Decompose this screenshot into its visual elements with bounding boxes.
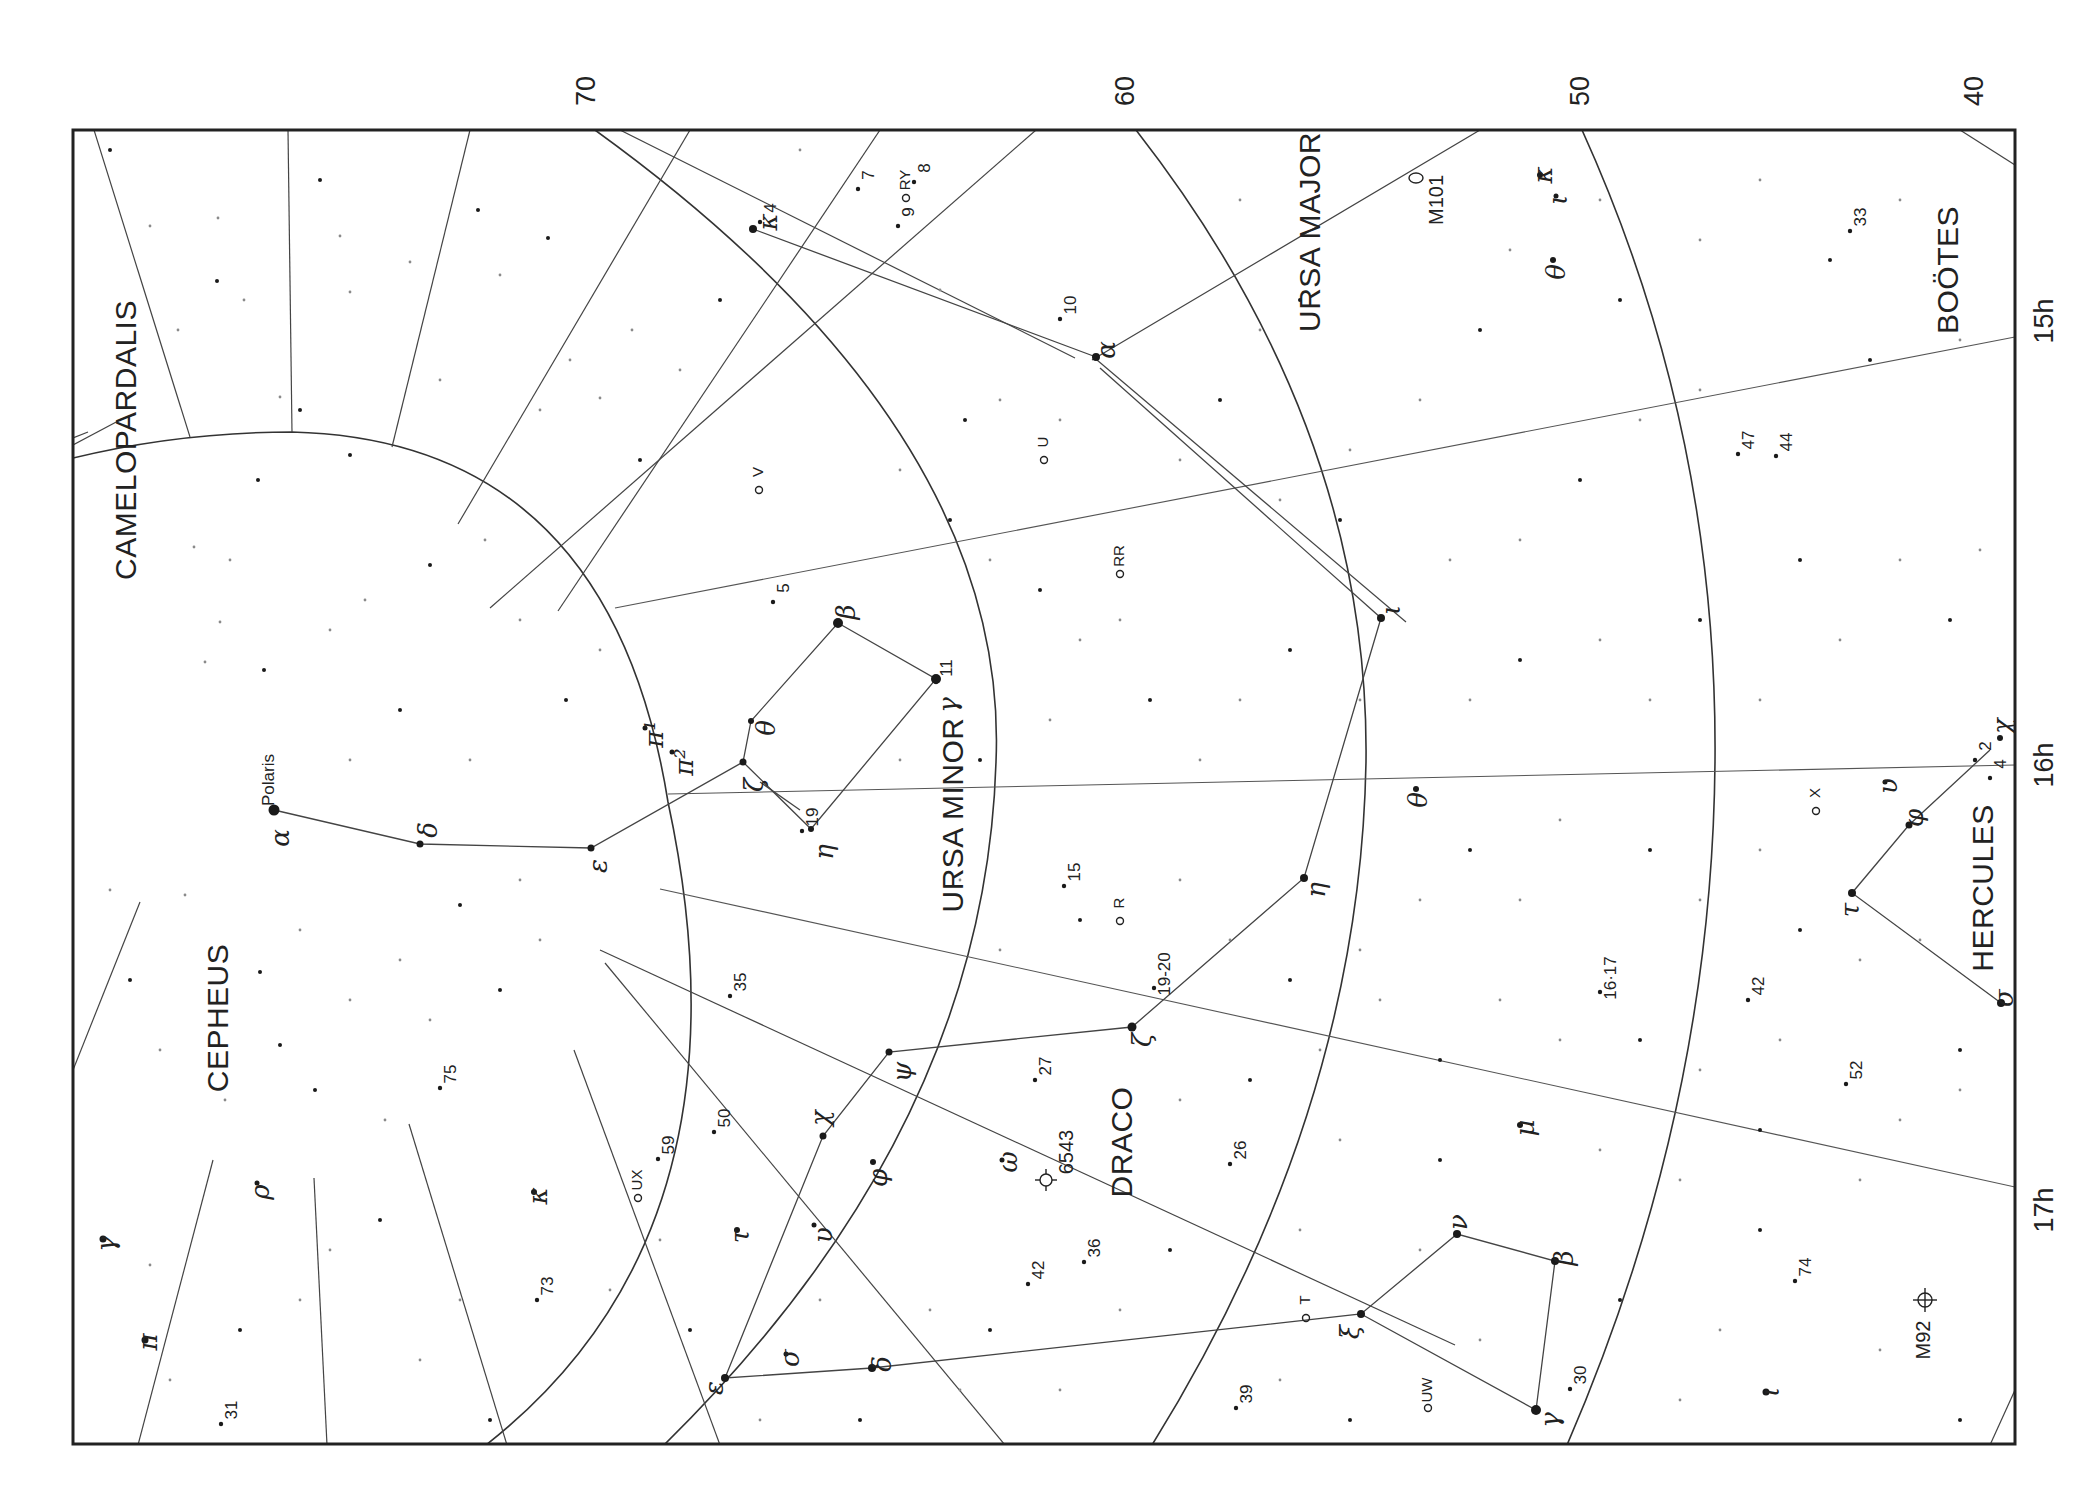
faint-star bbox=[1148, 698, 1152, 702]
faint-star bbox=[1559, 819, 1562, 822]
named-stars: αPolarisδεζθβγηπ¹π²καιηζψχεδξνβγωφυτσμθθ… bbox=[91, 166, 2019, 1427]
faint-star bbox=[1679, 1179, 1682, 1182]
faint-star bbox=[349, 999, 352, 1002]
star-dot bbox=[800, 829, 804, 833]
faint-star bbox=[939, 289, 942, 292]
star-label: β bbox=[1549, 1250, 1579, 1266]
faint-star bbox=[1179, 459, 1182, 462]
flamsteed-number: 7 bbox=[859, 170, 878, 179]
star-label: ε bbox=[699, 1381, 729, 1395]
faint-star bbox=[1469, 699, 1472, 702]
flamsteed-number: 9 bbox=[899, 207, 918, 216]
flamsteed-number: 15 bbox=[1065, 863, 1084, 882]
faint-star bbox=[599, 397, 602, 400]
faint-star bbox=[488, 1418, 492, 1422]
declination-label: 50 bbox=[1565, 76, 1595, 106]
ra-label: 17h bbox=[2029, 1187, 2059, 1232]
flamsteed-number: 31 bbox=[222, 1401, 241, 1420]
faint-star bbox=[1419, 399, 1422, 402]
constellation-figure bbox=[1100, 368, 1381, 618]
faint-star bbox=[1079, 639, 1082, 642]
faint-star bbox=[948, 518, 952, 522]
faint-star bbox=[1958, 1048, 1962, 1052]
hour-lines bbox=[615, 337, 2015, 1187]
star-dot bbox=[219, 1422, 223, 1426]
star-label: κ bbox=[1528, 166, 1558, 184]
star-dot bbox=[1793, 1279, 1797, 1283]
variable-star-icon bbox=[1041, 457, 1048, 464]
star-dot bbox=[1234, 1406, 1238, 1410]
faint-star bbox=[1478, 328, 1482, 332]
galaxy-icon bbox=[1409, 173, 1423, 183]
faint-star bbox=[1499, 999, 1502, 1002]
faint-star bbox=[679, 369, 682, 372]
faint-star bbox=[1699, 389, 1702, 392]
faint-star bbox=[1059, 419, 1062, 422]
faint-star bbox=[159, 1049, 162, 1052]
faint-star bbox=[1229, 939, 1232, 942]
faint-star bbox=[204, 661, 207, 664]
constellation-figure bbox=[274, 623, 936, 848]
faint-star bbox=[929, 1309, 932, 1312]
flamsteed-number: 30 bbox=[1571, 1366, 1590, 1385]
star-dot bbox=[712, 1130, 716, 1134]
faint-star bbox=[329, 1249, 332, 1252]
planetary-nebula-icon bbox=[1040, 1174, 1052, 1186]
faint-star bbox=[1648, 848, 1652, 852]
constellation-name: URSA MINOR bbox=[936, 717, 969, 912]
star-label: κ bbox=[753, 213, 783, 231]
star-dot bbox=[812, 1223, 817, 1228]
flamsteed-number: 27 bbox=[1036, 1057, 1055, 1076]
faint-star bbox=[688, 1328, 692, 1332]
faint-star bbox=[1979, 549, 1982, 552]
flamsteed-number: 75 bbox=[441, 1065, 460, 1084]
star-name: Polaris bbox=[259, 754, 278, 806]
star-label: χ bbox=[1987, 716, 2017, 736]
faint-star bbox=[659, 1239, 662, 1242]
faint-star bbox=[1798, 928, 1802, 932]
faint-star bbox=[229, 559, 232, 562]
faint-star bbox=[1958, 1418, 1962, 1422]
faint-star bbox=[1638, 1038, 1642, 1042]
star-dot bbox=[1453, 1230, 1461, 1238]
star-dot bbox=[870, 1159, 876, 1165]
flamsteed-number: 4 bbox=[1991, 759, 2010, 768]
flamsteed-number: 42 bbox=[1749, 977, 1768, 996]
faint-star bbox=[384, 1119, 387, 1122]
faint-star bbox=[243, 299, 246, 302]
faint-star bbox=[1599, 639, 1602, 642]
star-dot bbox=[1300, 874, 1308, 882]
faint-star bbox=[1759, 179, 1762, 182]
faint-star bbox=[1879, 1349, 1882, 1352]
faint-star bbox=[1828, 258, 1832, 262]
star-label: η bbox=[1301, 882, 1331, 898]
boundary-line bbox=[1990, 1390, 2015, 1445]
flamsteed-number: 5 bbox=[774, 583, 793, 592]
faint-star bbox=[409, 261, 412, 264]
star-dot bbox=[438, 1086, 442, 1090]
faint-star bbox=[1618, 298, 1622, 302]
faint-star bbox=[169, 1379, 172, 1382]
boundary-line bbox=[558, 130, 880, 611]
faint-star bbox=[348, 453, 352, 457]
star-dot bbox=[1026, 1282, 1030, 1286]
star-dot bbox=[758, 220, 762, 224]
star-label: ρ bbox=[245, 1184, 275, 1201]
star-dot bbox=[1844, 1082, 1848, 1086]
faint-star bbox=[1779, 1039, 1782, 1042]
faint-star bbox=[108, 148, 112, 152]
star-dot bbox=[1774, 454, 1778, 458]
faint-star bbox=[1839, 639, 1842, 642]
faint-star bbox=[1419, 1249, 1422, 1252]
faint-star bbox=[1948, 618, 1952, 622]
faint-star bbox=[978, 758, 982, 762]
star-dot bbox=[1413, 786, 1419, 792]
faint-star bbox=[313, 1088, 317, 1092]
flamsteed-number: 33 bbox=[1851, 208, 1870, 227]
faint-star bbox=[1719, 1329, 1722, 1332]
constellation-figure bbox=[753, 229, 1096, 357]
faint-star bbox=[799, 149, 802, 152]
faint-star bbox=[177, 329, 180, 332]
star-label: ι bbox=[1755, 1387, 1785, 1397]
variable-star-label: UX bbox=[628, 1170, 645, 1191]
